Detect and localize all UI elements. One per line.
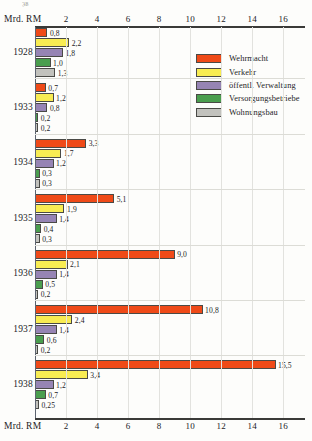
year-label-1928: 1928	[13, 47, 33, 57]
bar-value-label: 5,1	[114, 194, 126, 203]
axis-tick-top-8: 8	[157, 14, 162, 24]
bar-value-label: 2,1	[68, 260, 80, 269]
bar-1934-verkehr[interactable]	[35, 149, 61, 158]
bar-1938-wehrmacht[interactable]	[35, 360, 276, 369]
bar-value-label: 1,4	[57, 270, 69, 279]
bar-1938-verkehr[interactable]	[35, 370, 88, 379]
legend-item-ffentlverwaltung[interactable]: öffentl. Verwaltung	[196, 79, 312, 92]
group-separator	[35, 300, 305, 301]
bar-1928-wohnungsbau[interactable]	[35, 68, 55, 77]
bar-value-label: 10,8	[203, 305, 219, 314]
bar-1933-ffentlverwaltung[interactable]	[35, 103, 47, 112]
group-separator	[35, 78, 305, 79]
legend-label: Versorgungsbetriebe	[229, 94, 300, 103]
bar-row: 2,2	[35, 38, 312, 47]
bar-row: 0,25	[35, 400, 312, 409]
bar-1937-versorgungsbetriebe[interactable]	[35, 335, 44, 344]
bar-1935-wehrmacht[interactable]	[35, 194, 114, 203]
bar-1935-ffentlverwaltung[interactable]	[35, 214, 57, 223]
bar-value-label: 0,8	[47, 103, 59, 112]
year-label-1936: 1936	[13, 268, 33, 278]
bar-value-label: 0,7	[46, 390, 58, 399]
group-separator	[35, 189, 305, 190]
bar-value-label: 1,7	[61, 149, 73, 158]
bar-row: 0,2	[35, 123, 312, 132]
bar-1936-verkehr[interactable]	[35, 260, 68, 269]
bar-row: 0,2	[35, 345, 312, 354]
axis-tick-bottom-8: 8	[157, 421, 162, 431]
bar-1937-wehrmacht[interactable]	[35, 305, 203, 314]
bar-1928-verkehr[interactable]	[35, 38, 69, 47]
bar-row: 0,4	[35, 224, 312, 233]
bar-row: 1,2	[35, 380, 312, 389]
axis-tick-top-2: 2	[64, 14, 69, 24]
bar-1928-versorgungsbetriebe[interactable]	[35, 58, 51, 67]
bar-row: 3,3	[35, 139, 312, 148]
bar-value-label: 0,3	[40, 169, 52, 178]
legend-label: Wehrmacht	[229, 54, 268, 63]
bar-row: 0,5	[35, 280, 312, 289]
axis-tick-bottom-14: 14	[248, 421, 257, 431]
bar-row: 0,8	[35, 28, 312, 37]
bar-1935-verkehr[interactable]	[35, 204, 64, 213]
bar-1938-versorgungsbetriebe[interactable]	[35, 390, 46, 399]
bar-1928-wehrmacht[interactable]	[35, 28, 47, 37]
axis-tick-bottom-6: 6	[126, 421, 131, 431]
legend-item-wehrmacht[interactable]: Wehrmacht	[196, 52, 312, 65]
legend-swatch-icon	[196, 94, 222, 103]
bar-1938-ffentlverwaltung[interactable]	[35, 380, 54, 389]
axis-tick-top-12: 12	[217, 14, 226, 24]
legend-label: öffentl. Verwaltung	[229, 81, 296, 90]
bar-1936-wehrmacht[interactable]	[35, 250, 175, 259]
bar-1933-verkehr[interactable]	[35, 93, 54, 102]
bar-row: 0,7	[35, 390, 312, 399]
bar-row: 0,3	[35, 169, 312, 178]
chart-legend: WehrmachtVerkehröffentl. VerwaltungVerso…	[196, 52, 312, 119]
gridline-x-10	[190, 27, 191, 418]
gridline-x-12	[221, 27, 222, 418]
bar-value-label: 0,2	[38, 113, 50, 122]
legend-swatch-icon	[196, 54, 222, 63]
bar-value-label: 1,4	[57, 214, 69, 223]
bar-row: 1,9	[35, 204, 312, 213]
axis-tick-bottom-4: 4	[95, 421, 100, 431]
bar-value-label: 1,4	[57, 325, 69, 334]
bar-1933-wehrmacht[interactable]	[35, 83, 46, 92]
legend-item-wohnungsbau[interactable]: Wohnungsbau	[196, 106, 312, 119]
bar-value-label: 0,8	[47, 28, 59, 37]
bar-row: 0,6	[35, 335, 312, 344]
bar-value-label: 1,2	[54, 380, 66, 389]
bar-1936-ffentlverwaltung[interactable]	[35, 270, 57, 279]
axis-tick-top-14: 14	[248, 14, 257, 24]
year-group-1935: 19355,11,91,40,40,3	[0, 194, 312, 244]
year-label-1938: 1938	[13, 379, 33, 389]
year-group-1934: 19343,31,71,20,30,3	[0, 139, 312, 189]
bar-value-label: 0,2	[38, 123, 50, 132]
bar-value-label: 3,4	[88, 370, 100, 379]
bar-row: 1,4	[35, 325, 312, 334]
bar-value-label: 0,3	[40, 179, 52, 188]
axis-tick-bottom-2: 2	[64, 421, 69, 431]
gridline-x-16	[283, 27, 284, 418]
legend-item-versorgungsbetriebe[interactable]: Versorgungsbetriebe	[196, 92, 312, 105]
bar-row: 10,8	[35, 305, 312, 314]
gridline-x-4	[97, 27, 98, 418]
group-separator	[35, 245, 305, 246]
bar-value-label: 1,2	[54, 159, 66, 168]
bar-1934-wehrmacht[interactable]	[35, 139, 86, 148]
gridline-x-2	[66, 27, 67, 418]
bar-row: 9,0	[35, 250, 312, 259]
bar-1928-ffentlverwaltung[interactable]	[35, 48, 63, 57]
axis-tick-top-16: 16	[279, 14, 288, 24]
bar-value-label: 0,3	[40, 234, 52, 243]
bar-value-label: 0,2	[38, 290, 50, 299]
bar-row: 2,1	[35, 260, 312, 269]
bar-row: 1,4	[35, 214, 312, 223]
legend-item-verkehr[interactable]: Verkehr	[196, 65, 312, 78]
axis-tick-bottom-12: 12	[217, 421, 226, 431]
year-group-1936: 19369,02,11,40,50,2	[0, 250, 312, 300]
bar-value-label: 0,25	[39, 400, 55, 409]
bar-1937-ffentlverwaltung[interactable]	[35, 325, 57, 334]
bar-1934-ffentlverwaltung[interactable]	[35, 159, 54, 168]
bar-value-label: 1,8	[63, 48, 75, 57]
